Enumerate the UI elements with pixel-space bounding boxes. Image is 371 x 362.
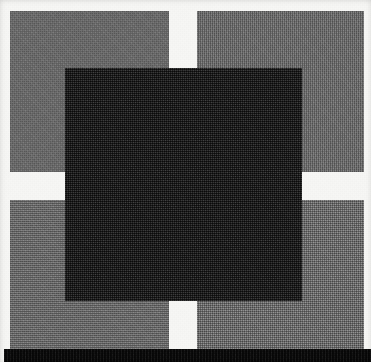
bottom-black-band [4, 349, 371, 362]
image-canvas: Scanned halftone print: four gray rectan… [0, 0, 371, 362]
dark-square [65, 68, 302, 301]
